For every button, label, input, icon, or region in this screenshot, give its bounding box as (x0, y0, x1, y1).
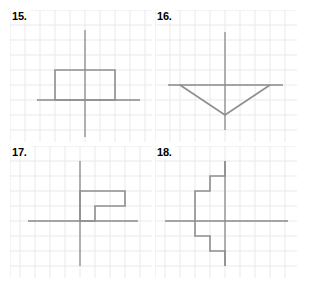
grid-lines-15 (10, 10, 152, 142)
problem-label-16: 16. (156, 9, 175, 23)
grid-svg-16 (155, 10, 297, 142)
problem-label-15: 15. (11, 9, 30, 23)
problem-panel-16: 16. (155, 10, 297, 142)
problem-panel-17: 17. (10, 146, 152, 278)
problem-panel-15: 15. (10, 10, 152, 142)
grid-svg-17 (10, 146, 152, 278)
grid-lines-16 (155, 10, 297, 142)
grid-svg-18 (155, 146, 297, 278)
grid-lines-18 (155, 146, 297, 278)
problem-panel-18: 18. (155, 146, 297, 278)
worksheet-canvas: 15. (0, 0, 312, 293)
grid-svg-15 (10, 10, 152, 142)
problem-label-18: 18. (156, 145, 175, 159)
grid-lines-17 (10, 146, 152, 278)
problem-label-17: 17. (11, 145, 30, 159)
